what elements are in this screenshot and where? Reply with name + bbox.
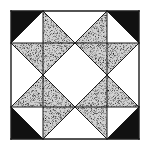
quilt-block-diagram	[0, 0, 146, 145]
block-field	[11, 11, 139, 139]
